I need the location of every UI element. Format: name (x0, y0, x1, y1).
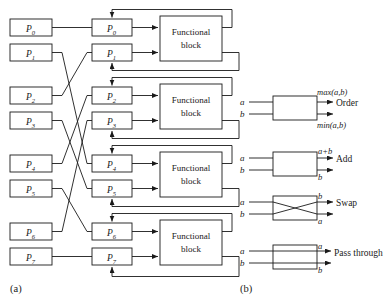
add-output-bottom-label: b (318, 172, 322, 182)
functional-block-box-0 (160, 16, 222, 61)
swap-input-b-label: b (240, 209, 245, 219)
diagram-svg: P0 P1 P2 P3 P4 P5 P6 P7 P0 P1 P2 P3 P4 P… (0, 0, 387, 305)
functional-block-label-0-line2: block (181, 40, 201, 50)
swap-operation-name: Swap (336, 198, 357, 208)
functional-block-label-3-line1: Functional (172, 231, 211, 241)
add-input-b-label: b (240, 165, 245, 175)
operation-pass-through-box (273, 245, 317, 269)
order-operation-name: Order (336, 98, 359, 108)
pass-through-operation-name: Pass through (334, 248, 383, 258)
swap-output-bottom-label: a (318, 216, 322, 226)
order-input-a-label: a (240, 97, 245, 107)
wire-2-to-1 (52, 53, 92, 96)
pass-through-output-bottom-label: b (318, 265, 322, 275)
pass-through-input-b-label: b (240, 258, 245, 268)
wire-3-to-5 (52, 121, 92, 189)
order-input-b-label: b (240, 109, 245, 119)
functional-block-label-0-line1: Functional (172, 27, 211, 37)
functional-block-label-2-line1: Functional (172, 163, 211, 173)
order-output-bottom-label: min(a,b) (317, 120, 346, 130)
pass-through-input-a-label: a (240, 246, 245, 256)
stage-to-block-wires (132, 28, 158, 257)
panel-b-caption: (b) (240, 283, 253, 295)
functional-block-label-1-line1: Functional (172, 95, 211, 105)
swap-output-top-label: b (318, 191, 322, 201)
operation-add-box (273, 152, 317, 176)
functional-block-box-2 (160, 152, 222, 197)
wire-5-to-6 (52, 189, 92, 232)
add-input-a-label: a (240, 153, 245, 163)
pass-through-output-top-label: a (318, 241, 322, 251)
order-output-top-label: max(a,b) (317, 87, 348, 97)
functional-block-box-1 (160, 84, 222, 129)
add-operation-name: Add (336, 154, 353, 164)
figure-container: P0 P1 P2 P3 P4 P5 P6 P7 P0 P1 P2 P3 P4 P… (0, 0, 387, 305)
swap-input-a-label: a (240, 197, 245, 207)
functional-block-group (160, 16, 222, 265)
add-output-top-label: a+b (318, 146, 332, 156)
wire-4-to-2 (52, 96, 92, 164)
operation-order-box (273, 96, 317, 120)
functional-block-label-1-line2: block (181, 108, 201, 118)
permutation-wires (52, 28, 92, 257)
panel-a-caption: (a) (10, 283, 22, 295)
operation-order (249, 96, 333, 120)
functional-block-label-3-line2: block (181, 244, 201, 254)
functional-block-label-2-line2: block (181, 176, 201, 186)
functional-block-box-3 (160, 220, 222, 265)
